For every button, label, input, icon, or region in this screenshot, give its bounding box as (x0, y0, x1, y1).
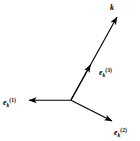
polarization-vector-diagram: k ek(1) ek(3) ek(2) (0, 0, 140, 141)
vector-label-e2-superscript: (2) (120, 127, 126, 133)
vector-line-e2 (71, 100, 112, 121)
vector-line-e3 (71, 65, 91, 100)
vector-label-k: k (110, 3, 114, 12)
vector-label-e2: ek(2) (114, 122, 127, 139)
vector-label-e1-superscript: (1) (9, 97, 15, 103)
vector-label-k-base: k (110, 3, 114, 12)
vector-label-e3: ek(3) (99, 62, 112, 79)
vector-label-e1: ek(1) (3, 92, 16, 109)
vector-diagram-canvas (0, 0, 140, 141)
vector-label-e3-superscript: (3) (105, 67, 111, 73)
